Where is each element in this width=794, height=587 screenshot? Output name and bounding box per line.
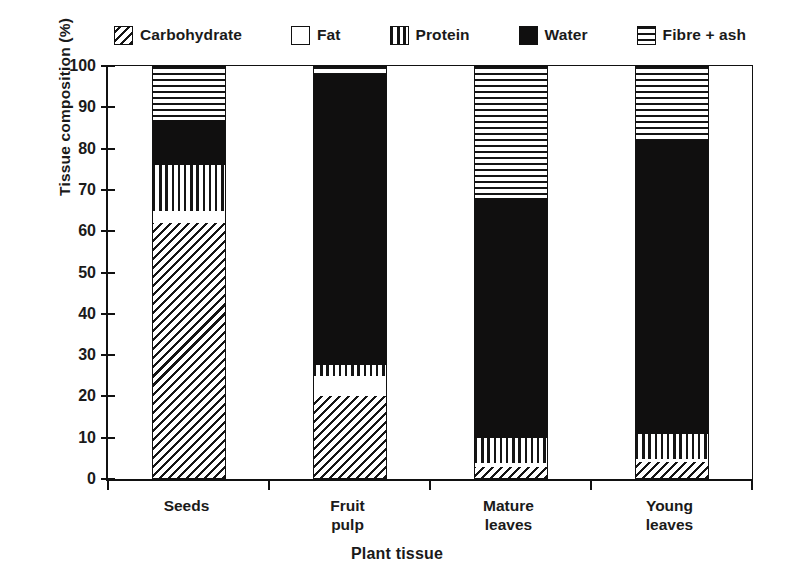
legend-label-protein: Protein bbox=[416, 26, 470, 44]
bar-young-leaves bbox=[635, 66, 709, 479]
y-tick-label: 40 bbox=[50, 303, 96, 325]
y-tick-label: 0 bbox=[50, 468, 96, 490]
bar-segment-water bbox=[313, 74, 387, 365]
bar-fruit-pulp bbox=[313, 66, 387, 479]
bar-segment-carbohydrate bbox=[313, 396, 387, 479]
stacked-bar-chart: Carbohydrate Fat Protein Water Fibre + a… bbox=[0, 0, 794, 587]
x-category-line: pulp bbox=[278, 515, 418, 534]
x-category-line: Young bbox=[600, 496, 740, 515]
bars-container bbox=[108, 66, 752, 479]
water-swatch-icon bbox=[519, 26, 538, 45]
fat-swatch-icon bbox=[291, 26, 310, 45]
legend-item-water: Water bbox=[519, 26, 588, 45]
x-category-label-fruit-pulp: Fruitpulp bbox=[278, 496, 418, 534]
chart-legend: Carbohydrate Fat Protein Water Fibre + a… bbox=[106, 20, 754, 50]
y-tick-mark bbox=[101, 65, 115, 67]
y-tick-mark bbox=[101, 395, 115, 397]
legend-item-carbohydrate: Carbohydrate bbox=[114, 26, 242, 45]
bar-segment-fibre-ash bbox=[152, 66, 226, 120]
y-tick-mark bbox=[101, 230, 115, 232]
bar-segment-protein bbox=[474, 438, 548, 464]
y-tick-mark bbox=[101, 106, 115, 108]
y-tick-mark bbox=[101, 148, 115, 150]
y-tick-mark bbox=[101, 354, 115, 356]
y-tick-label: 30 bbox=[50, 344, 96, 366]
x-category-line: Seeds bbox=[117, 496, 257, 515]
x-category-line: Fruit bbox=[278, 496, 418, 515]
x-category-line: Mature bbox=[439, 496, 579, 515]
x-tick-mark bbox=[268, 479, 270, 490]
x-category-label-young-leaves: Youngleaves bbox=[600, 496, 740, 534]
legend-item-fibre-ash: Fibre + ash bbox=[637, 26, 746, 45]
bar-segment-fat bbox=[474, 463, 548, 466]
bar-segment-carbohydrate bbox=[474, 467, 548, 479]
legend-item-protein: Protein bbox=[390, 26, 470, 45]
legend-item-fat: Fat bbox=[291, 26, 341, 45]
y-tick-label: 50 bbox=[50, 262, 96, 284]
y-tick-label: 60 bbox=[50, 220, 96, 242]
bar-mature-leaves bbox=[474, 66, 548, 479]
bar-segment-protein bbox=[313, 365, 387, 375]
bar-segment-carbohydrate bbox=[635, 462, 709, 479]
legend-label-fat: Fat bbox=[317, 26, 341, 44]
legend-label-fibre-ash: Fibre + ash bbox=[663, 26, 746, 44]
plot-area: 0102030405060708090100 Tissue compositio… bbox=[106, 65, 753, 481]
bar-segment-fibre-ash bbox=[474, 66, 548, 198]
bar-segment-fat bbox=[313, 376, 387, 397]
bar-segment-water bbox=[152, 120, 226, 165]
bar-segment-fibre-ash bbox=[313, 66, 387, 74]
fibre-ash-swatch-icon bbox=[637, 26, 656, 45]
protein-swatch-icon bbox=[390, 26, 409, 45]
carbohydrate-swatch-icon bbox=[114, 26, 133, 45]
x-tick-mark bbox=[590, 479, 592, 490]
bar-segment-carbohydrate bbox=[152, 223, 226, 479]
x-category-label-mature-leaves: Matureleaves bbox=[439, 496, 579, 534]
x-tick-mark bbox=[429, 479, 431, 490]
legend-label-water: Water bbox=[545, 26, 588, 44]
bar-segment-protein bbox=[152, 165, 226, 210]
bar-segment-water bbox=[474, 198, 548, 438]
bar-seeds bbox=[152, 66, 226, 479]
bar-segment-fat bbox=[152, 211, 226, 223]
bar-segment-fat bbox=[635, 459, 709, 462]
x-category-line: leaves bbox=[600, 515, 740, 534]
x-tick-mark bbox=[107, 479, 109, 490]
legend-label-carbohydrate: Carbohydrate bbox=[140, 26, 242, 44]
y-tick-mark bbox=[101, 313, 115, 315]
y-tick-mark bbox=[101, 272, 115, 274]
x-axis-title: Plant tissue bbox=[0, 545, 794, 563]
y-axis-title: Tissue composition (%) bbox=[56, 18, 74, 196]
bar-segment-protein bbox=[635, 434, 709, 460]
x-tick-mark bbox=[751, 479, 753, 490]
y-tick-mark bbox=[101, 189, 115, 191]
y-tick-label: 10 bbox=[50, 427, 96, 449]
y-tick-mark bbox=[101, 437, 115, 439]
bar-segment-water bbox=[635, 140, 709, 433]
x-category-label-seeds: Seeds bbox=[117, 496, 257, 515]
bar-segment-fibre-ash bbox=[635, 66, 709, 140]
x-category-line: leaves bbox=[439, 515, 579, 534]
y-tick-label: 20 bbox=[50, 385, 96, 407]
